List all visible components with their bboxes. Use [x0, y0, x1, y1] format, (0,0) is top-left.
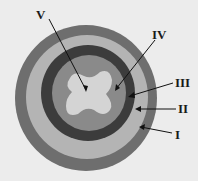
- cross-section-figure: [0, 0, 198, 181]
- label-I: I: [175, 128, 180, 141]
- label-II: II: [178, 102, 188, 115]
- diagram-canvas: V IV III II I: [0, 0, 198, 181]
- label-V: V: [36, 8, 45, 21]
- central-lumen: [66, 71, 112, 115]
- label-IV: IV: [152, 28, 166, 41]
- label-III: III: [175, 76, 190, 89]
